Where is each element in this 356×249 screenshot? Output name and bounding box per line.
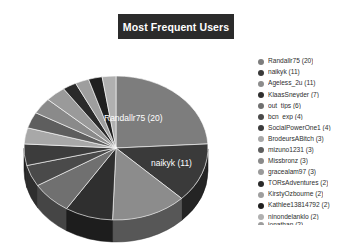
legend-item-label: bcn_exp (4) (268, 114, 303, 121)
legend-swatch-icon (258, 136, 264, 142)
legend-item-label: out_tips (6) (268, 103, 301, 110)
legend-item-label: Randallr75 (20) (268, 58, 313, 65)
legend-item[interactable]: bcn_exp (4) (256, 111, 356, 122)
legend: Randallr75 (20)naikyk (11)Ageless_2u (11… (256, 56, 356, 249)
legend-item-label: Kathlee13814792 (2) (268, 202, 330, 209)
legend-swatch-icon (258, 59, 264, 65)
legend-swatch-icon (258, 169, 264, 175)
legend-item[interactable]: mizuno1231 (3) (256, 145, 356, 156)
legend-swatch-icon (258, 114, 264, 120)
legend-item-label: KirstyOzbourne (2) (268, 191, 323, 198)
legend-item[interactable]: Ageless_2u (11) (256, 78, 356, 89)
legend-item-label: TORsAdventures (2) (268, 180, 328, 187)
legend-item[interactable]: TORsAdventures (2) (256, 178, 356, 189)
pie-chart-svg: Randallr75 (20)naikyk (11) (16, 62, 216, 244)
legend-item-label: KlaasSneyder (7) (268, 92, 319, 99)
legend-item[interactable]: KirstyOzbourne (2) (256, 189, 356, 200)
legend-item[interactable]: SocialPowerOne1 (4) (256, 123, 356, 134)
legend-item-label: mizuno1231 (3) (268, 147, 314, 154)
legend-item-label: gracealam97 (3) (268, 169, 316, 176)
pie-top-surface (24, 76, 208, 220)
legend-swatch-icon (258, 81, 264, 87)
pie-slice-label: Randallr75 (20) (104, 113, 163, 123)
pie-slice[interactable] (116, 76, 208, 148)
legend-item[interactable]: ninondelanklo (2) (256, 211, 356, 222)
legend-swatch-icon (258, 147, 264, 153)
legend-item-label: ninondelanklo (2) (268, 214, 319, 221)
legend-item[interactable]: gracealam97 (3) (256, 167, 356, 178)
legend-swatch-icon (258, 92, 264, 98)
legend-item-label: BrodeursABitch (3) (268, 136, 324, 143)
legend-item-label: jonathan (2) (268, 222, 303, 225)
pie-slice-label: naikyk (11) (151, 158, 192, 168)
legend-swatch-icon (258, 192, 264, 198)
legend-item[interactable]: naikyk (11) (256, 67, 356, 78)
legend-item[interactable]: Kathlee13814792 (2) (256, 200, 356, 211)
chart-title-bar: Most Frequent Users (118, 14, 234, 39)
legend-item[interactable]: Randallr75 (20) (256, 56, 356, 67)
legend-item[interactable]: Missbronz (3) (256, 156, 356, 167)
legend-swatch-icon (258, 125, 264, 131)
legend-item-label: Ageless_2u (11) (268, 80, 316, 87)
pie-chart: Randallr75 (20)naikyk (11) (16, 62, 216, 244)
legend-item[interactable]: BrodeursABitch (3) (256, 134, 356, 145)
legend-item[interactable]: out_tips (6) (256, 100, 356, 111)
legend-item-label: SocialPowerOne1 (4) (268, 125, 331, 132)
legend-swatch-icon (258, 214, 264, 220)
page-title: Most Frequent Users (123, 21, 229, 33)
legend-swatch-icon (258, 181, 264, 187)
legend-swatch-icon (258, 222, 264, 225)
legend-swatch-icon (258, 158, 264, 164)
legend-swatch-icon (258, 203, 264, 209)
legend-swatch-icon (258, 70, 264, 76)
legend-swatch-icon (258, 103, 264, 109)
legend-item-label: naikyk (11) (268, 69, 300, 76)
legend-item-clipped[interactable]: jonathan (2) (258, 222, 356, 233)
legend-item-label: Missbronz (3) (268, 158, 308, 165)
legend-item[interactable]: KlaasSneyder (7) (256, 89, 356, 100)
